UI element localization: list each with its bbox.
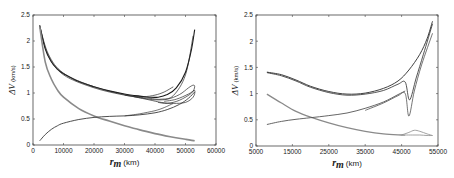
series-line bbox=[267, 24, 433, 100]
x-tick-label: 25000 bbox=[320, 148, 338, 155]
series-group bbox=[40, 25, 195, 140]
series-line bbox=[40, 25, 174, 96]
series-line bbox=[125, 85, 195, 103]
y-tick-label: 0.5 bbox=[244, 116, 253, 123]
x-tick-label: 30000 bbox=[115, 147, 133, 154]
x-tick-label: 15000 bbox=[283, 148, 301, 155]
left-plot-panel: 010000200003000040000500006000000.511.52… bbox=[7, 11, 225, 168]
y-axis-label: ΔV(km/s) bbox=[7, 65, 17, 95]
x-tick-label: 55000 bbox=[429, 148, 447, 155]
x-axis-label: rm(km) bbox=[110, 156, 140, 169]
y-tick-label: 2.5 bbox=[21, 11, 30, 18]
y-tick-label: 1.5 bbox=[21, 63, 30, 70]
x-tick-label: 60000 bbox=[207, 147, 225, 154]
x-tick-label: 35000 bbox=[356, 148, 374, 155]
y-tick-label: 0 bbox=[26, 141, 30, 148]
y-tick-label: 0.5 bbox=[21, 115, 30, 122]
y-tick-label: 0 bbox=[249, 142, 253, 149]
x-tick-label: 45000 bbox=[393, 148, 411, 155]
series-line bbox=[267, 91, 405, 125]
y-tick-label: 1 bbox=[249, 90, 253, 97]
y-tick-label: 1 bbox=[26, 89, 30, 96]
y-tick-label: 2.5 bbox=[244, 11, 253, 18]
y-tick-label: 2 bbox=[249, 38, 253, 45]
plot-frame bbox=[256, 15, 438, 146]
series-line bbox=[267, 21, 433, 94]
x-tick-label: 10000 bbox=[54, 147, 72, 154]
series-line bbox=[40, 25, 195, 97]
x-axis-label: rm(km) bbox=[332, 157, 362, 170]
y-tick-label: 1.5 bbox=[244, 64, 253, 71]
x-tick-label: 40000 bbox=[146, 147, 164, 154]
x-tick-label: 50000 bbox=[176, 147, 194, 154]
y-tick-label: 2 bbox=[26, 37, 30, 44]
series-line bbox=[40, 92, 195, 141]
series-line bbox=[405, 135, 432, 136]
y-axis-label: ΔV(km/s) bbox=[230, 66, 240, 96]
x-tick-label: 20000 bbox=[85, 147, 103, 154]
right-plot-panel: 5000150002500035000450005500000.511.522.… bbox=[230, 11, 447, 169]
chart-canvas: 010000200003000040000500006000000.511.52… bbox=[0, 0, 454, 178]
series-group bbox=[267, 21, 433, 135]
x-tick-label: 0 bbox=[31, 147, 35, 154]
series-line bbox=[365, 33, 432, 116]
